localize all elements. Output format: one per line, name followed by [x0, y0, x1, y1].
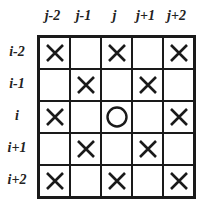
grid-cell — [163, 101, 194, 133]
row-label: i+1 — [2, 140, 32, 156]
x-mark-icon — [45, 107, 65, 127]
x-mark-icon — [169, 171, 189, 191]
grid-cell — [70, 165, 101, 197]
x-mark-icon — [45, 171, 65, 191]
row-label: i — [2, 108, 32, 124]
x-mark-icon — [76, 75, 96, 95]
x-mark-icon — [76, 139, 96, 159]
grid-cell — [70, 133, 101, 165]
grid-cell — [101, 133, 132, 165]
grid-cell — [70, 101, 101, 133]
grid-cell — [132, 133, 163, 165]
grid-cell — [132, 69, 163, 101]
x-mark-icon — [138, 139, 158, 159]
grid-cell — [132, 101, 163, 133]
grid-cell — [70, 69, 101, 101]
row-label: i-2 — [2, 44, 32, 60]
stencil-grid — [37, 35, 196, 199]
grid-cell — [39, 37, 70, 69]
x-mark-icon — [107, 171, 127, 191]
grid-cell — [163, 133, 194, 165]
grid-cell — [70, 37, 101, 69]
grid-cell — [163, 37, 194, 69]
x-mark-icon — [107, 43, 127, 63]
grid-cell — [163, 69, 194, 101]
row-label: i+2 — [2, 172, 32, 188]
grid-cell — [132, 37, 163, 69]
column-label: j+2 — [161, 8, 192, 24]
grid-cell — [101, 69, 132, 101]
grid-cell — [132, 165, 163, 197]
grid-cell — [101, 101, 132, 133]
column-label: j-1 — [68, 8, 99, 24]
column-label: j+1 — [130, 8, 161, 24]
row-label: i-1 — [2, 76, 32, 92]
column-label: j — [99, 8, 130, 24]
circle-icon — [106, 106, 128, 128]
column-label: j-2 — [37, 8, 68, 24]
x-mark-icon — [45, 43, 65, 63]
grid-cell — [101, 37, 132, 69]
x-mark-icon — [138, 75, 158, 95]
x-mark-icon — [169, 43, 189, 63]
grid-cell — [101, 165, 132, 197]
grid-cell — [39, 133, 70, 165]
grid-cell — [163, 165, 194, 197]
x-mark-icon — [169, 107, 189, 127]
grid-cell — [39, 101, 70, 133]
grid-cell — [39, 165, 70, 197]
grid-cell — [39, 69, 70, 101]
